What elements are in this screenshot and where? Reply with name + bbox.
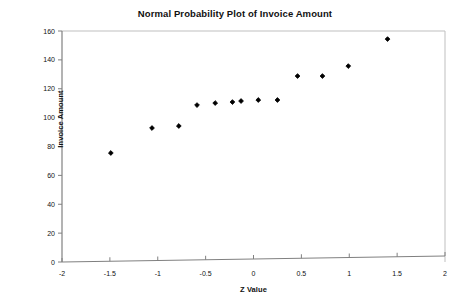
x-axis-tick-label: 2	[443, 270, 447, 277]
x-axis-tick-label: -2	[59, 270, 65, 277]
data-point-marker	[176, 124, 181, 129]
data-point-marker	[108, 151, 113, 156]
y-axis-tick-label: 60	[47, 172, 55, 179]
y-axis-tick-label: 140	[43, 56, 55, 63]
data-point-marker	[256, 98, 261, 103]
x-axis-tick-label: 1	[347, 270, 351, 277]
x-axis-tick-label: 0.5	[297, 270, 307, 277]
y-axis-tick-label: 160	[43, 28, 55, 35]
data-point-marker	[275, 98, 280, 103]
data-point-marker	[213, 101, 218, 106]
x-axis-label: Z Value	[62, 285, 445, 294]
y-axis-tick-label: 20	[47, 230, 55, 237]
x-axis-tick-label: 0	[252, 270, 256, 277]
x-axis-tick-label: -1.5	[104, 270, 116, 277]
data-point-marker	[295, 74, 300, 79]
y-axis-label: Invoice Amount	[56, 74, 65, 164]
x-axis-tick-label: 1.5	[392, 270, 402, 277]
y-axis-tick-label: 120	[43, 85, 55, 92]
y-axis-tick-label: 100	[43, 114, 55, 121]
y-axis-tick-label: 0	[51, 259, 55, 266]
data-point-marker	[320, 74, 325, 79]
plot-area: 020406080100120140160-2-1.5-1-0.500.511.…	[0, 0, 470, 304]
x-axis-tick-label: -0.5	[200, 270, 212, 277]
data-point-marker	[385, 37, 390, 42]
chart-container: Normal Probability Plot of Invoice Amoun…	[0, 0, 470, 304]
data-point-marker	[346, 64, 351, 69]
data-point-marker	[195, 103, 200, 108]
x-axis-tick-label: -1	[155, 270, 161, 277]
y-axis-tick-label: 40	[47, 201, 55, 208]
data-point-marker	[239, 99, 244, 104]
data-point-marker	[150, 126, 155, 131]
y-axis-tick-label: 80	[47, 143, 55, 150]
data-point-marker	[230, 100, 235, 105]
